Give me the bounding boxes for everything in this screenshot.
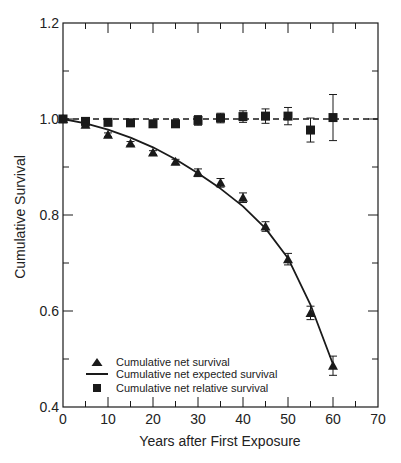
square-marker xyxy=(126,118,135,127)
plot-border xyxy=(63,23,378,407)
legend: Cumulative net survival Cumulative net e… xyxy=(86,356,277,394)
legend-label: Cumulative net survival xyxy=(116,356,230,368)
y-tick-label: 0.8 xyxy=(40,207,60,223)
legend-item-relative-survival: Cumulative net relative survival xyxy=(93,382,268,394)
square-marker xyxy=(239,112,248,121)
triangle-marker xyxy=(328,361,338,370)
x-tick-label: 50 xyxy=(280,411,296,427)
legend-item-net-survival: Cumulative net survival xyxy=(92,356,230,368)
square-marker xyxy=(171,119,180,128)
square-marker xyxy=(329,113,338,122)
error-bars xyxy=(82,95,338,376)
square-marker xyxy=(149,119,158,128)
square-marker xyxy=(104,118,113,127)
x-tick-label: 0 xyxy=(59,411,67,427)
square-marker xyxy=(284,112,293,121)
legend-label: Cumulative net relative survival xyxy=(116,382,268,394)
axis-ticks xyxy=(63,23,378,407)
triangle-marker-icon xyxy=(92,358,103,366)
y-axis-title: Cumulative Survival xyxy=(12,155,28,279)
square-marker xyxy=(306,126,315,135)
y-tick-label: 1.2 xyxy=(40,15,60,31)
plot-frame xyxy=(63,23,378,407)
data-markers xyxy=(58,112,338,370)
expected-survival-curve xyxy=(63,119,333,364)
triangle-marker xyxy=(216,178,226,187)
square-marker-icon xyxy=(93,384,101,392)
square-marker xyxy=(194,116,203,125)
triangle-marker xyxy=(283,254,293,263)
x-tick-label: 60 xyxy=(325,411,341,427)
x-tick-labels: 010203040506070 xyxy=(59,411,386,427)
survival-chart: 010203040506070 0.40.60.81.01.2 Years af… xyxy=(0,0,401,463)
square-marker xyxy=(216,114,225,123)
y-tick-label: 0.4 xyxy=(40,399,60,415)
x-tick-label: 30 xyxy=(190,411,206,427)
legend-label: Cumulative net expected survival xyxy=(116,368,277,380)
x-axis-title: Years after First Exposure xyxy=(139,433,301,449)
y-tick-label: 0.6 xyxy=(40,303,60,319)
triangle-marker xyxy=(238,193,248,202)
x-tick-label: 10 xyxy=(100,411,116,427)
x-tick-label: 70 xyxy=(370,411,386,427)
x-tick-label: 40 xyxy=(235,411,251,427)
y-tick-label: 1.0 xyxy=(40,111,60,127)
x-tick-label: 20 xyxy=(145,411,161,427)
square-marker xyxy=(261,112,270,121)
y-tick-labels: 0.40.60.81.01.2 xyxy=(40,15,60,415)
curve-path xyxy=(63,119,333,364)
legend-item-expected-survival: Cumulative net expected survival xyxy=(86,368,277,380)
